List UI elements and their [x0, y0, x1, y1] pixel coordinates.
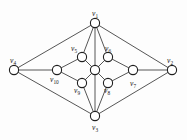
graph-edge — [85, 60, 91, 66]
vertex-label-subscript: 8 — [107, 90, 110, 96]
vertex-label-v8: v8 — [104, 87, 110, 95]
vertex-label-v1: v1 — [92, 10, 98, 18]
vertex-label-v9: v9 — [74, 87, 80, 95]
graph-vertex-v5 — [77, 52, 86, 61]
vertices-group — [9, 18, 176, 120]
graph-edge — [61, 59, 78, 68]
vertex-label-v7: v7 — [130, 80, 136, 88]
vertex-label-subscript: 2 — [170, 60, 173, 66]
graph-edge — [84, 27, 94, 52]
graph-vertex-v10 — [52, 65, 61, 74]
vertex-label-subscript: 5 — [74, 48, 77, 54]
graph-edge — [98, 73, 104, 79]
graph-vertex-v2 — [167, 65, 176, 74]
graph-edge — [112, 72, 129, 81]
graph-vertex-v7 — [128, 65, 137, 74]
vertex-label-subscript: 4 — [13, 60, 16, 66]
graph-vertex-v4 — [9, 65, 18, 74]
graph-edge — [85, 73, 91, 79]
graph-canvas — [0, 0, 187, 140]
vertex-label-subscript: 9 — [77, 90, 80, 96]
graph-edge — [98, 60, 104, 66]
graph-vertex-v1 — [90, 18, 99, 27]
graph-edge — [112, 59, 129, 68]
vertex-label-v5: v5 — [71, 45, 77, 53]
vertex-label-subscript: 1 — [95, 13, 98, 19]
graph-diagram: v1v2v3v4v5v6v7v8v9v10 — [0, 0, 187, 140]
graph-vertex-vc — [90, 65, 99, 74]
vertex-label-v10: v10 — [50, 76, 58, 84]
vertex-label-v6: v6 — [105, 45, 111, 53]
vertex-label-subscript: 6 — [108, 48, 111, 54]
vertex-label-v4: v4 — [10, 57, 16, 65]
vertex-label-subscript: 3 — [95, 127, 98, 133]
graph-edge — [61, 72, 78, 81]
vertex-label-v2: v2 — [167, 57, 173, 65]
vertex-label-subscript: 7 — [133, 83, 136, 89]
graph-edge — [84, 87, 94, 111]
vertex-label-subscript: 10 — [53, 79, 58, 85]
graph-vertex-v3 — [90, 111, 99, 120]
vertex-label-v3: v3 — [92, 124, 98, 132]
